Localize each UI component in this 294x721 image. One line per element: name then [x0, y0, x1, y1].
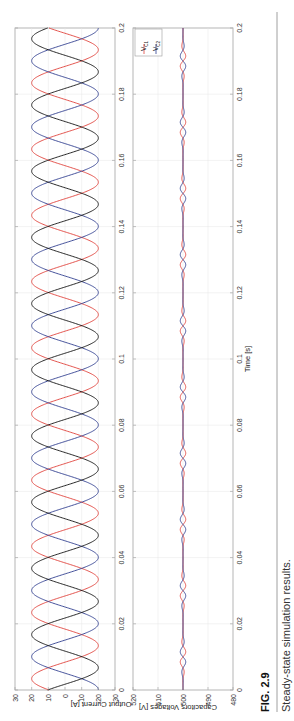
- x-tick-label: 0.2: [236, 23, 243, 33]
- caption: FIG. 2.9 Steady-state simulation results…: [259, 12, 292, 712]
- x-tick-label: 0.18: [118, 87, 125, 101]
- figure-caption: Steady-state simulation results.: [280, 559, 292, 712]
- figure-label: FIG. 2.9: [259, 672, 271, 712]
- capacitor-voltages-plot: 520510500490480 00.020.040.060.080.10.12…: [130, 23, 253, 712]
- y-tick-label: 480: [230, 694, 237, 706]
- y-tick-label: 10: [45, 694, 52, 702]
- x-tick-label: 0.04: [118, 551, 125, 565]
- x-tick-label: 0.02: [236, 617, 243, 631]
- x-tick-label: 0.16: [236, 153, 243, 167]
- x-tick-label: 0.14: [118, 220, 125, 234]
- figure: 3020100-10-20-30 00.020.040.060.080.10.1…: [0, 0, 294, 721]
- x-tick-label: 0.02: [118, 617, 125, 631]
- y-tick-label: 30: [12, 694, 19, 702]
- x-tick-label: 0.18: [236, 87, 243, 101]
- x-tick-label: 0.06: [236, 484, 243, 498]
- x-tick-label: 0.14: [236, 220, 243, 234]
- x-tick-label: 0.12: [118, 286, 125, 300]
- x-tick-label: 0.12: [236, 286, 243, 300]
- x-tick-label: 0.16: [118, 153, 125, 167]
- x-tick-label: 0: [236, 688, 243, 692]
- x-tick-label: 0.08: [236, 418, 243, 432]
- y-tick-label: 520: [130, 694, 137, 706]
- y-tick-label: 20: [28, 694, 35, 702]
- plot2-y-axis-label: Capacitors Voltages [V]: [139, 703, 217, 712]
- x-tick-label: 0.1: [236, 354, 243, 364]
- x-tick-label: 0.2: [118, 23, 125, 33]
- x-tick-label: 0.04: [236, 551, 243, 565]
- legend: VC1 VC2: [135, 29, 162, 56]
- x-tick-label: 0: [118, 688, 125, 692]
- y-tick-label: 0: [62, 694, 69, 698]
- plot1-y-axis-label: Output Current [A]: [71, 700, 132, 709]
- x-tick-label: 0.06: [118, 484, 125, 498]
- x-tick-label: 0.1: [118, 354, 125, 364]
- x-axis-label: Time [s]: [243, 346, 252, 372]
- output-current-plot: 3020100-10-20-30 00.020.040.060.080.10.1…: [12, 23, 132, 709]
- x-tick-label: 0.08: [118, 418, 125, 432]
